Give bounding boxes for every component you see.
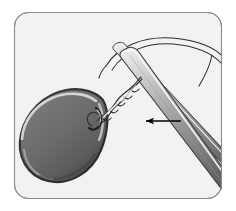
figure-frame xyxy=(0,0,236,211)
illustration-stage: Attaching a teardrop sinker to a rod tip xyxy=(0,0,236,211)
figure-canvas xyxy=(0,0,236,211)
